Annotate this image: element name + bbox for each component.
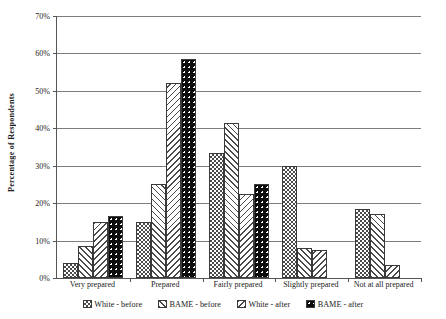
- y-axis-tick-label: 70%: [35, 12, 50, 21]
- bar: [93, 222, 108, 278]
- x-axis-tick: [421, 278, 422, 282]
- bar: [239, 194, 254, 278]
- y-axis-tick-labels: 0%10%20%30%40%50%60%70%: [22, 0, 54, 285]
- y-axis-title-text: Percentage of Respondents: [7, 93, 16, 192]
- bar-chart: Percentage of Respondents 0%10%20%30%40%…: [0, 0, 446, 319]
- bar: [355, 209, 370, 278]
- legend-swatch-icon: [237, 300, 246, 308]
- legend-swatch-icon: [306, 300, 315, 308]
- x-axis-tick-label: Prepared: [151, 280, 179, 289]
- x-axis-tick-label: Fairly prepared: [213, 280, 262, 289]
- bar: [385, 265, 400, 278]
- legend-swatch-icon: [158, 300, 167, 308]
- bar: [166, 83, 181, 278]
- plot-area: [56, 16, 421, 279]
- bar-group: [275, 16, 348, 278]
- bar: [136, 222, 151, 278]
- legend-swatch-icon: [83, 300, 92, 308]
- y-axis-tick-label: 60%: [35, 49, 50, 58]
- bar: [224, 123, 239, 278]
- bar: [312, 250, 327, 278]
- legend-item: White - before: [83, 300, 142, 309]
- y-axis-tick: [53, 278, 57, 279]
- y-axis-tick-label: 50%: [35, 86, 50, 95]
- bar: [254, 184, 269, 278]
- bar: [78, 246, 93, 278]
- legend-label: BAME - before: [170, 300, 221, 309]
- y-axis-title: Percentage of Respondents: [0, 0, 22, 285]
- legend-item: BAME - after: [306, 300, 363, 309]
- bar: [63, 263, 78, 278]
- bar: [370, 214, 385, 278]
- legend-label: BAME - after: [318, 300, 363, 309]
- bar: [297, 248, 312, 278]
- bar: [209, 153, 224, 278]
- x-axis-tick-label: Slightly prepared: [283, 280, 338, 289]
- bar: [151, 184, 166, 278]
- x-axis-tick-labels: Very preparedPreparedFairly preparedSlig…: [56, 280, 420, 294]
- y-axis-tick-label: 40%: [35, 124, 50, 133]
- legend: White - beforeBAME - beforeWhite - after…: [0, 296, 446, 312]
- legend-label: White - after: [248, 300, 290, 309]
- legend-item: White - after: [237, 300, 290, 309]
- bar-group: [348, 16, 421, 278]
- legend-label: White - before: [94, 300, 142, 309]
- y-axis-tick-label: 30%: [35, 161, 50, 170]
- bars-layer: [57, 16, 421, 278]
- bar: [108, 216, 123, 278]
- bar-group: [57, 16, 130, 278]
- bar: [181, 59, 196, 278]
- y-axis-tick-label: 0%: [39, 274, 50, 283]
- x-axis-tick-label: Not at all prepared: [354, 280, 414, 289]
- bar-group: [130, 16, 203, 278]
- y-axis-tick-label: 10%: [35, 236, 50, 245]
- bar-group: [203, 16, 276, 278]
- x-axis-tick-label: Very prepared: [70, 280, 115, 289]
- bar: [282, 166, 297, 278]
- y-axis-tick-label: 20%: [35, 199, 50, 208]
- legend-item: BAME - before: [158, 300, 221, 309]
